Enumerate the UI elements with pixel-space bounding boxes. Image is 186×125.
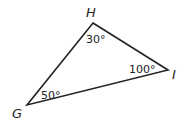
vertex-label-h: H [86, 5, 96, 20]
vertex-label-i: I [172, 67, 176, 82]
vertex-label-g: G [12, 106, 22, 121]
angle-label-g: 50° [41, 89, 61, 102]
angle-label-h: 30° [86, 33, 106, 46]
angle-label-i: 100° [129, 63, 156, 76]
triangle-diagram: H I G 30° 100° 50° [0, 0, 186, 125]
